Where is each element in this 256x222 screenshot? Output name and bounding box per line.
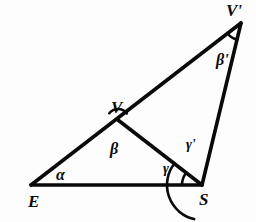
segments-group [31,23,241,185]
angle-beta-prime-arc [228,34,237,40]
angle-gamma-prime-label: γ' [186,138,196,152]
angle-gamma-label: γ [163,162,169,176]
point-label-s: S [199,191,208,208]
figure-canvas [0,0,256,222]
angle-gamma-prime-arc [167,163,194,219]
angle-alpha-label: α [56,167,65,183]
angle-gamma-arc [182,173,186,185]
geometry-figure: ESVV'αββ'γγ' [0,0,256,222]
point-label-e: E [28,193,39,210]
angle-beta-label: β [110,141,118,157]
angle-beta-prime-label: β' [216,52,229,68]
segment-v-s [118,120,202,185]
point-label-v-prime: V' [226,2,242,19]
point-label-v: V [111,99,122,116]
